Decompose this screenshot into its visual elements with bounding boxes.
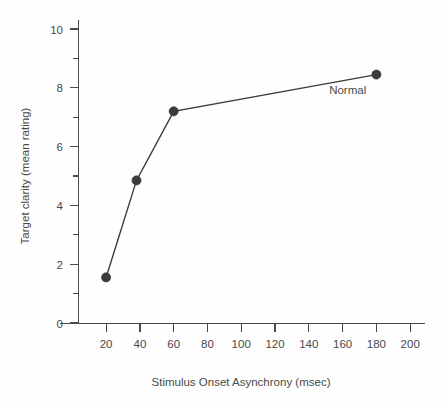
data-series-layer [102, 70, 382, 282]
x-tick-label-60: 60 [167, 338, 180, 350]
y-axis-tick-labels: 10 8 6 4 2 0 [50, 24, 63, 330]
series-line-normal [106, 75, 376, 278]
series-label-normal: Normal [329, 84, 366, 96]
x-tick-label-100: 100 [232, 338, 251, 350]
data-point-marker[interactable] [102, 273, 111, 282]
x-tick-label-140: 140 [299, 338, 318, 350]
data-point-marker[interactable] [372, 70, 381, 79]
y-axis-title: Target clarity (mean rating) [19, 107, 31, 244]
x-tick-label-40: 40 [134, 338, 147, 350]
x-tick-label-80: 80 [201, 338, 214, 350]
chart-figure: 10 8 6 4 2 0 20 40 60 80 100 120 [0, 0, 448, 402]
y-tick-label-0: 0 [57, 318, 63, 330]
y-tick-label-2: 2 [57, 259, 63, 271]
x-tick-label-200: 200 [401, 338, 420, 350]
y-tick-label-10: 10 [50, 24, 63, 36]
x-axis-ticks [106, 324, 410, 333]
x-tick-label-160: 160 [333, 338, 352, 350]
x-axis-tick-labels: 20 40 60 80 100 120 140 160 180 200 [100, 338, 420, 350]
data-point-marker[interactable] [169, 107, 178, 116]
annotation-layer: Normal [329, 84, 366, 96]
y-tick-label-4: 4 [57, 200, 64, 212]
x-axis-title: Stimulus Onset Asynchrony (msec) [152, 376, 331, 388]
axes-group [60, 20, 425, 324]
x-tick-label-120: 120 [265, 338, 284, 350]
x-tick-label-180: 180 [367, 338, 386, 350]
data-point-marker[interactable] [132, 176, 141, 185]
x-tick-label-20: 20 [100, 338, 113, 350]
y-tick-label-8: 8 [57, 82, 63, 94]
y-tick-label-6: 6 [57, 141, 63, 153]
y-axis-ticks [70, 29, 79, 323]
line-chart-svg: 10 8 6 4 2 0 20 40 60 80 100 120 [0, 0, 448, 402]
